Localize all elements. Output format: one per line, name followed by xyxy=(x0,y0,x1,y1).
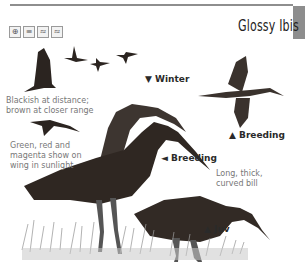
distant-flock-icon xyxy=(24,46,138,92)
flying-ibis-small-icon xyxy=(30,120,80,136)
flying-ibis-icon xyxy=(198,56,284,128)
label-breeding-standing: ◄ Breeding xyxy=(161,153,217,163)
distance-note: Blackish at distance; brown at closer ra… xyxy=(6,96,94,116)
label-winter: ▼ Winter xyxy=(145,74,189,84)
bill-note: Long, thick, curved bill xyxy=(216,169,262,189)
label-juv: ▲ Juv xyxy=(204,224,230,234)
label-breeding-flight: ▲ Breeding xyxy=(229,130,285,140)
wing-note: Green, red and magenta show on wing in s… xyxy=(10,141,82,171)
